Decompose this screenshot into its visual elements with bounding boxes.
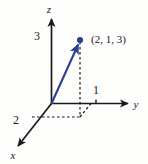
coordinate-figure: z y x 3 1 2 (2, 1, 3)	[0, 0, 148, 164]
x-axis-label: x	[10, 149, 16, 161]
y-axis-label: y	[133, 98, 139, 110]
y-tick-label-1: 1	[93, 83, 99, 97]
point-coordinate-label: (2, 1, 3)	[91, 33, 126, 46]
coordinate-diagram-svg: z y x 3 1 2 (2, 1, 3)	[0, 0, 148, 164]
position-vector	[52, 37, 84, 104]
z-tick-label-3: 3	[34, 29, 40, 43]
z-axis-label: z	[46, 3, 52, 15]
point-marker	[77, 37, 83, 43]
x-tick-label-2: 2	[13, 113, 19, 127]
x-axis-line	[18, 104, 52, 147]
vector-arrow	[52, 45, 79, 104]
dashed-xy-diagonal	[80, 104, 91, 118]
